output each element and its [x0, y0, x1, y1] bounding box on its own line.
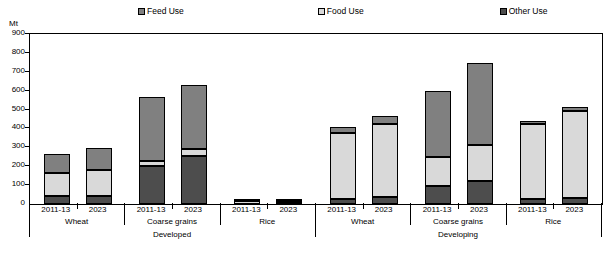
stacked-bar — [467, 63, 493, 204]
y-axis-tick-label: 600 — [12, 86, 25, 94]
bar-segment-food-use — [562, 111, 588, 199]
bar-segment-other-use — [425, 186, 451, 204]
y-axis-tick-label: 200 — [12, 161, 25, 169]
x-axis-tick-mark — [458, 203, 459, 209]
chart-legend: Feed Use Food Use Other Use — [0, 4, 609, 18]
bar-segment-food-use — [467, 145, 493, 181]
x-axis-tick-mark — [553, 203, 554, 209]
x-axis-region-label: Developing — [408, 230, 508, 239]
legend-item-other-use: Other Use — [500, 7, 548, 16]
plot-area — [29, 33, 603, 205]
x-axis-group-separator — [124, 203, 125, 225]
stacked-bar — [520, 121, 546, 204]
bars-container — [30, 34, 602, 204]
bar-segment-feed-use — [181, 85, 207, 149]
x-axis-tick-mark — [172, 203, 173, 209]
stacked-bar — [181, 85, 207, 204]
stacked-bar — [330, 127, 356, 204]
y-axis-tick-label: 700 — [12, 67, 25, 75]
x-axis-group-label: Coarse grains — [413, 217, 503, 226]
bar-segment-food-use — [44, 173, 70, 197]
stacked-bar — [562, 107, 588, 204]
bar-segment-other-use — [181, 156, 207, 204]
stacked-bar — [86, 148, 112, 204]
legend-item-food-use: Food Use — [318, 7, 364, 16]
stacked-bar — [44, 154, 70, 204]
x-axis: 2011-132023Wheat2011-132023Coarse grains… — [29, 205, 601, 253]
y-axis-tick-label: 500 — [12, 105, 25, 113]
bar-segment-other-use — [562, 198, 588, 204]
bar-segment-feed-use — [330, 127, 356, 134]
bar-segment-feed-use — [276, 199, 302, 201]
other-use-swatch — [500, 8, 507, 15]
bar-segment-feed-use — [234, 199, 260, 201]
legend-label: Feed Use — [147, 7, 184, 16]
y-axis-tick-label: 900 — [12, 29, 25, 37]
x-axis-group-separator — [410, 203, 411, 225]
bar-segment-food-use — [234, 201, 260, 203]
bar-segment-feed-use — [44, 154, 70, 173]
bar-segment-feed-use — [467, 63, 493, 145]
y-axis-tick-label: 100 — [12, 180, 25, 188]
bar-segment-other-use — [86, 196, 112, 205]
stacked-bar — [425, 91, 451, 204]
bar-segment-other-use — [330, 199, 356, 204]
x-axis-group-label: Wheat — [318, 217, 408, 226]
bar-segment-food-use — [330, 133, 356, 199]
stacked-bar — [234, 201, 260, 204]
chart-root: Feed Use Food Use Other Use Mt 010020030… — [0, 0, 609, 253]
food-use-swatch — [318, 8, 325, 15]
bar-segment-feed-use — [562, 107, 588, 111]
y-axis-tick-label: 400 — [12, 123, 25, 131]
bar-segment-feed-use — [139, 97, 165, 160]
x-axis-region-separator — [601, 203, 602, 237]
y-axis-unit-label: Mt — [9, 19, 18, 28]
y-axis-tick-label: 300 — [12, 142, 25, 150]
bar-segment-food-use — [276, 201, 302, 204]
legend-item-feed-use: Feed Use — [138, 7, 184, 16]
x-axis-group-label: Rice — [508, 217, 598, 226]
bar-segment-other-use — [44, 196, 70, 204]
x-axis-group-separator — [220, 203, 221, 225]
stacked-bar — [276, 200, 302, 204]
bar-segment-other-use — [467, 181, 493, 204]
legend-label: Food Use — [327, 7, 364, 16]
stacked-bar — [139, 97, 165, 204]
bar-segment-feed-use — [372, 116, 398, 124]
bar-segment-feed-use — [425, 91, 451, 157]
legend-label: Other Use — [509, 7, 548, 16]
x-axis-tick-mark — [267, 203, 268, 209]
bar-segment-food-use — [372, 124, 398, 198]
x-axis-group-label: Rice — [222, 217, 312, 226]
y-axis-tick-label: 0 — [21, 199, 25, 207]
bar-segment-feed-use — [86, 148, 112, 170]
bar-segment-food-use — [139, 161, 165, 167]
x-axis-region-separator — [29, 203, 30, 237]
stacked-bar — [372, 116, 398, 204]
x-axis-group-separator — [315, 203, 316, 237]
x-axis-region-label: Developed — [122, 230, 222, 239]
bar-segment-food-use — [86, 170, 112, 196]
y-axis: 0100200300400500600700800900 — [0, 33, 29, 204]
bar-segment-other-use — [372, 197, 398, 204]
bar-segment-food-use — [425, 157, 451, 186]
x-axis-group-label: Wheat — [32, 217, 122, 226]
x-axis-group-separator — [506, 203, 507, 225]
bar-segment-other-use — [520, 199, 546, 204]
x-axis-tick-mark — [363, 203, 364, 209]
y-axis-tick-label: 800 — [12, 48, 25, 56]
feed-use-swatch — [138, 8, 145, 15]
bar-segment-food-use — [520, 124, 546, 200]
bar-segment-other-use — [139, 166, 165, 204]
bar-segment-feed-use — [520, 121, 546, 124]
x-axis-group-label: Coarse grains — [127, 217, 217, 226]
x-axis-tick-mark — [77, 203, 78, 209]
bar-segment-food-use — [181, 149, 207, 156]
